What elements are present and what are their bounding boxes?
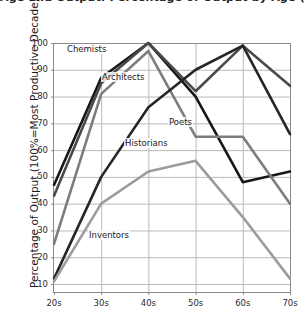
series-label-poets: Poets <box>168 117 193 127</box>
chart-container: Age and Output: Percentage of Output by … <box>0 0 305 336</box>
plot-frame <box>54 44 291 293</box>
series-lines <box>54 43 290 281</box>
series-label-historians: Historians <box>124 138 169 148</box>
series-label-architects: Architects <box>101 72 146 82</box>
gridlines <box>51 43 291 295</box>
series-label-inventors: Inventors <box>88 230 130 240</box>
series-label-chemists: Chemists <box>66 44 107 54</box>
plot-area <box>0 0 305 336</box>
series-line-poets <box>54 51 290 244</box>
series-line-historians <box>54 46 290 279</box>
